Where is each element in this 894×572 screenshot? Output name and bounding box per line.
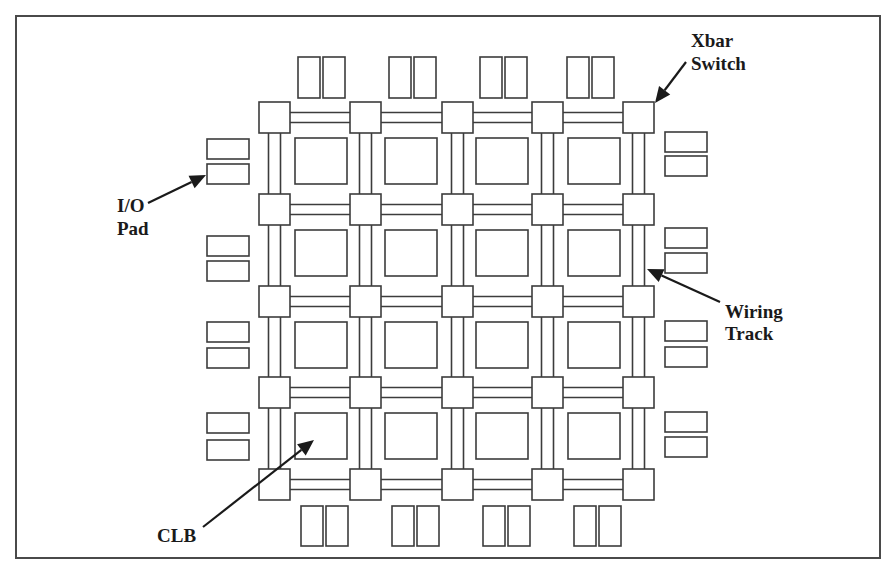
xbar-switch bbox=[442, 194, 473, 225]
clb-block bbox=[295, 230, 347, 276]
xbar-switch bbox=[623, 377, 654, 408]
io-pad-top bbox=[298, 57, 320, 98]
io-pad-top bbox=[389, 57, 411, 98]
clb-block bbox=[568, 230, 620, 276]
io-pad-right bbox=[665, 253, 707, 273]
io-pad-bottom bbox=[508, 506, 530, 546]
xbar-switch-arrow bbox=[655, 62, 686, 103]
io-pad-bottom bbox=[483, 506, 505, 546]
label-io-pad-line2: Pad bbox=[117, 218, 149, 239]
xbar-switch bbox=[259, 102, 290, 133]
io-pad-right bbox=[665, 347, 707, 367]
label-wiring-track-line1: Wiring bbox=[725, 301, 783, 322]
xbar-switch bbox=[623, 194, 654, 225]
xbar-switch bbox=[442, 469, 473, 500]
clb-block bbox=[568, 413, 620, 459]
xbar-switch bbox=[532, 194, 563, 225]
arrow-shaft bbox=[662, 276, 720, 302]
io-pad-bottom bbox=[301, 506, 323, 546]
fpga-architecture-diagram: Xbar Switch I/O Pad Wiring Track CLB bbox=[0, 0, 894, 572]
io-pad-top bbox=[567, 57, 589, 98]
clb-block bbox=[476, 230, 528, 276]
xbar-switch bbox=[259, 194, 290, 225]
xbar-switch bbox=[350, 377, 381, 408]
io-pad-left bbox=[207, 236, 249, 256]
io-pad-bottom bbox=[326, 506, 348, 546]
io-pad-top bbox=[323, 57, 345, 98]
xbar-switch bbox=[532, 102, 563, 133]
xbar-switch bbox=[623, 469, 654, 500]
io-pad-bottom bbox=[417, 506, 439, 546]
xbar-switch bbox=[350, 469, 381, 500]
io-pad-right bbox=[665, 156, 707, 176]
arrow-shaft bbox=[148, 182, 192, 203]
io-pad-top bbox=[414, 57, 436, 98]
xbar-switch bbox=[350, 286, 381, 317]
io-pad-right bbox=[665, 132, 707, 152]
io-pad-bottom bbox=[574, 506, 596, 546]
clb-block bbox=[568, 322, 620, 368]
io-pad-right bbox=[665, 412, 707, 432]
label-clb: CLB bbox=[157, 525, 196, 546]
xbar-switch bbox=[532, 469, 563, 500]
clb-block bbox=[476, 138, 528, 184]
io-pad-right bbox=[665, 321, 707, 341]
io-pad-top bbox=[480, 57, 502, 98]
arrow-shaft bbox=[665, 62, 686, 90]
xbar-switch bbox=[623, 102, 654, 133]
xbar-switch bbox=[442, 377, 473, 408]
clb-block bbox=[295, 413, 347, 459]
arrow-head-icon bbox=[655, 86, 670, 103]
io-pad-bottom bbox=[599, 506, 621, 546]
io-pad-right bbox=[665, 437, 707, 457]
wiring-track-arrow bbox=[647, 269, 720, 302]
io-pad-right bbox=[665, 228, 707, 248]
io-pad-bottom bbox=[392, 506, 414, 546]
clb-block bbox=[385, 413, 437, 459]
clb-block bbox=[476, 322, 528, 368]
io-pad-left bbox=[207, 348, 249, 368]
label-io-pad-line1: I/O bbox=[117, 195, 144, 216]
clb-block bbox=[476, 413, 528, 459]
label-xbar-line1: Xbar bbox=[691, 30, 734, 51]
io-pad-top bbox=[505, 57, 527, 98]
io-pad-top bbox=[592, 57, 614, 98]
clb-block bbox=[568, 138, 620, 184]
label-xbar-line2: Switch bbox=[691, 53, 746, 74]
io-pad-left bbox=[207, 322, 249, 342]
io-pad-left bbox=[207, 164, 249, 184]
io-pad-left bbox=[207, 261, 249, 281]
io-pad-arrow bbox=[148, 175, 206, 203]
xbar-switch bbox=[259, 286, 290, 317]
xbar-switch bbox=[259, 469, 290, 500]
clb-block bbox=[385, 138, 437, 184]
xbar-switch bbox=[532, 286, 563, 317]
xbar-switch bbox=[350, 102, 381, 133]
xbar-switch bbox=[350, 194, 381, 225]
clb-block bbox=[385, 322, 437, 368]
xbar-switch bbox=[623, 286, 654, 317]
xbar-switch bbox=[259, 377, 290, 408]
clb-block bbox=[295, 322, 347, 368]
io-pad-left bbox=[207, 139, 249, 159]
label-wiring-track-line2: Track bbox=[725, 323, 774, 344]
clb-block bbox=[295, 138, 347, 184]
clb-block bbox=[385, 230, 437, 276]
io-pad-left bbox=[207, 440, 249, 460]
xbar-switch bbox=[532, 377, 563, 408]
xbar-switch bbox=[442, 286, 473, 317]
xbar-switch bbox=[442, 102, 473, 133]
io-pad-left bbox=[207, 413, 249, 433]
